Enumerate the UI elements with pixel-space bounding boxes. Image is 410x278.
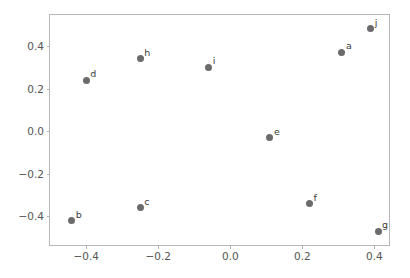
data-point-h[interactable] — [137, 55, 144, 62]
data-point-a[interactable] — [338, 49, 345, 56]
data-point-label-f: f — [314, 193, 317, 203]
x-tick-mark — [86, 245, 87, 249]
data-point-label-i: i — [213, 56, 216, 66]
x-tick-label: −0.4 — [73, 251, 99, 262]
y-tick-label: 0.2 — [27, 83, 44, 94]
x-tick-mark — [230, 245, 231, 249]
data-point-label-a: a — [346, 41, 352, 51]
x-tick-mark — [158, 245, 159, 249]
y-tick-mark — [47, 131, 51, 132]
data-point-c[interactable] — [137, 204, 144, 211]
data-point-label-g: g — [382, 220, 388, 230]
x-tick-mark — [374, 245, 375, 249]
data-point-f[interactable] — [306, 200, 313, 207]
data-point-label-b: b — [76, 210, 82, 220]
plot-axes-area: 0.40.20.0−0.2−0.4 −0.4−0.20.00.20.4 abcd… — [49, 14, 390, 246]
data-point-label-h: h — [144, 48, 150, 58]
y-tick-label: −0.2 — [19, 168, 45, 179]
data-point-label-e: e — [274, 127, 280, 137]
data-point-label-j: j — [375, 18, 378, 28]
x-tick-mark — [302, 245, 303, 249]
data-point-label-c: c — [144, 197, 149, 207]
y-tick-label: −0.4 — [19, 211, 45, 222]
x-tick-label: 0.0 — [222, 251, 239, 262]
y-tick-mark — [47, 174, 51, 175]
x-tick-label: −0.2 — [146, 251, 172, 262]
data-point-i[interactable] — [205, 64, 212, 71]
y-tick-label: 0.4 — [27, 40, 44, 51]
y-tick-mark — [47, 216, 51, 217]
data-point-label-d: d — [90, 69, 96, 79]
scatter-plot-figure: 0.40.20.0−0.2−0.4 −0.4−0.20.00.20.4 abcd… — [0, 0, 410, 278]
y-tick-mark — [47, 46, 51, 47]
y-tick-label: 0.0 — [27, 126, 44, 137]
data-point-d[interactable] — [83, 77, 90, 84]
x-tick-label: 0.2 — [294, 251, 311, 262]
data-point-b[interactable] — [68, 217, 75, 224]
data-point-g[interactable] — [375, 228, 382, 235]
data-point-e[interactable] — [266, 134, 273, 141]
data-point-j[interactable] — [367, 25, 374, 32]
y-tick-mark — [47, 89, 51, 90]
x-tick-label: 0.4 — [366, 251, 383, 262]
